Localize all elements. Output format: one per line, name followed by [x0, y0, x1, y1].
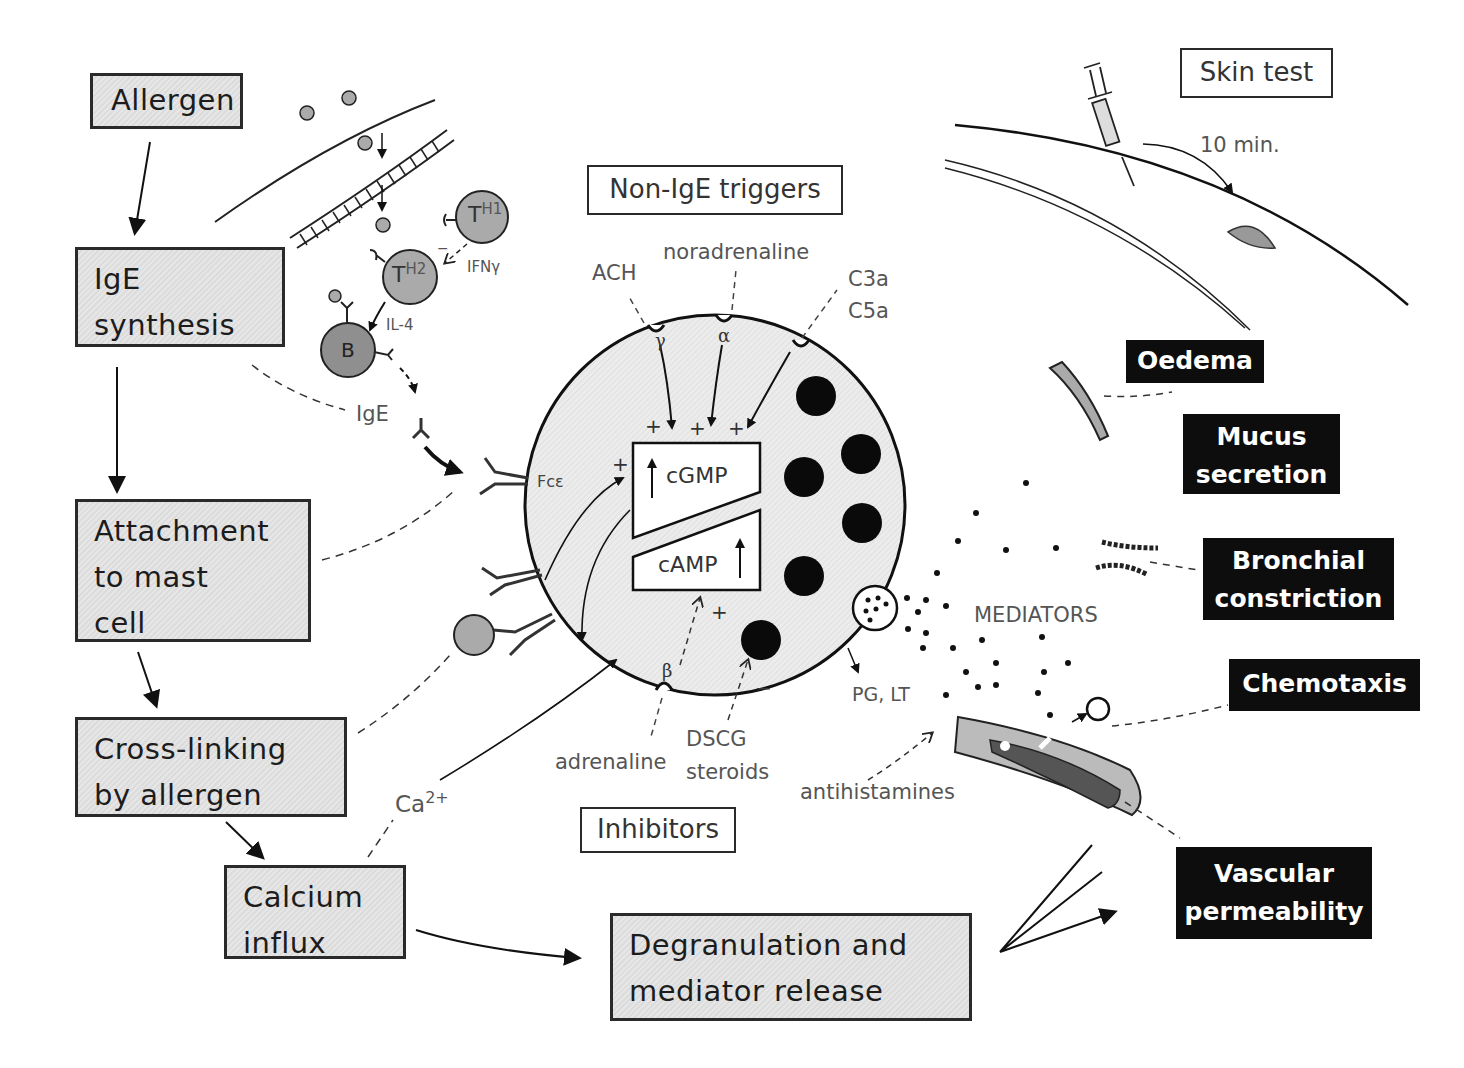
plus-sign-ach: + — [645, 414, 662, 438]
calcium-influx-box: Calcium influx — [224, 865, 406, 959]
cross-linking-label-1: Cross-linking — [94, 726, 328, 772]
fc-epsilon-label: Fcε — [537, 472, 564, 491]
ige-synthesis-label-2: synthesis — [94, 302, 266, 348]
allergen-box: Allergen — [90, 73, 243, 129]
degranulation-label-2: mediator release — [629, 968, 953, 1014]
plus-sign-complement: + — [728, 416, 745, 440]
attachment-box: Attachment to mast cell — [75, 499, 311, 642]
attachment-label-3: cell — [94, 600, 292, 646]
effect-mucus-secretion: Mucus secretion — [1183, 414, 1340, 494]
allergen-label: Allergen — [111, 80, 222, 120]
plus-sign-noradrenaline: + — [689, 416, 706, 440]
allergen-particles-icon — [300, 91, 390, 302]
effect-chemotaxis: Chemotaxis — [1229, 659, 1420, 711]
airway-epithelium-icon — [1050, 362, 1108, 440]
noradrenaline-label: noradrenaline — [663, 240, 809, 264]
effect-bronchial-label-2: constriction — [1203, 580, 1394, 618]
beta-receptor-label: β — [662, 660, 672, 681]
skin-test-time-label: 10 min. — [1200, 133, 1280, 157]
mediator-dots-icon — [904, 480, 1071, 718]
effect-chemotaxis-label: Chemotaxis — [1229, 665, 1420, 703]
non-ige-triggers-box: Non-IgE triggers — [587, 165, 843, 215]
b-cell-label: B — [341, 338, 355, 362]
skin-test-title: Skin test — [1200, 57, 1313, 87]
syringe-icon — [1084, 63, 1134, 186]
effect-vascular-label-1: Vascular — [1176, 855, 1372, 893]
th1-label: TH1 — [468, 200, 502, 227]
effect-mucus-label-2: secretion — [1183, 456, 1340, 494]
inhibitors-title: Inhibitors — [597, 814, 719, 844]
antihistamines-label: antihistamines — [800, 780, 955, 804]
camp-label: cAMP — [658, 552, 717, 577]
adrenaline-label: adrenaline — [555, 750, 666, 774]
plus-sign-camp: + — [711, 600, 728, 624]
minus-sign-dscg: − — [755, 676, 772, 700]
ifn-gamma-label: IFNγ — [467, 258, 500, 276]
allergen-crosslink-icon — [454, 615, 494, 655]
ige-synthesis-label-1: IgE — [94, 256, 266, 302]
plus-sign-cgmp: + — [612, 452, 629, 476]
calcium-influx-label-2: influx — [243, 920, 387, 966]
effect-vascular-permeability: Vascular permeability — [1176, 847, 1372, 939]
c3a-label: C3a — [848, 267, 889, 291]
calcium-ion-label: Ca2+ — [395, 788, 449, 817]
ige-molecule-icon — [413, 418, 429, 438]
degranulation-label-1: Degranulation and — [629, 922, 953, 968]
gamma-receptor-label: γ — [655, 330, 666, 351]
neutrophil-icon — [1087, 698, 1109, 720]
ige-label: IgE — [356, 402, 389, 426]
cross-linking-label-2: by allergen — [94, 772, 328, 818]
attachment-label-2: to mast — [94, 554, 292, 600]
effect-oedema: Oedema — [1126, 340, 1264, 383]
ach-label: ACH — [592, 261, 636, 285]
effect-bronchial-constriction: Bronchial constriction — [1203, 538, 1394, 620]
wheal-icon — [1228, 226, 1275, 248]
th2-label: TH2 — [392, 260, 426, 287]
effect-mucus-label-1: Mucus — [1183, 418, 1340, 456]
dscg-label: DSCG — [686, 727, 746, 751]
degranulation-box: Degranulation and mediator release — [610, 913, 972, 1021]
attachment-label-1: Attachment — [94, 508, 292, 554]
skin-surface-icon — [955, 125, 1408, 305]
epithelium-icon — [215, 100, 454, 248]
non-ige-triggers-title: Non-IgE triggers — [609, 174, 820, 204]
inhibitors-box: Inhibitors — [580, 807, 736, 853]
bronchial-muscle-icon — [1102, 542, 1158, 548]
alpha-receptor-label: α — [718, 325, 730, 346]
mediators-label: MEDIATORS — [974, 603, 1098, 627]
inhibition-minus: − — [437, 240, 449, 256]
calcium-influx-label-1: Calcium — [243, 874, 387, 920]
pg-lt-label: PG, LT — [852, 683, 910, 705]
ige-synthesis-box: IgE synthesis — [75, 247, 285, 347]
effect-bronchial-label-1: Bronchial — [1203, 542, 1394, 580]
effect-oedema-label: Oedema — [1126, 342, 1264, 380]
c5a-label: C5a — [848, 299, 889, 323]
effect-vascular-label-2: permeability — [1176, 893, 1372, 931]
cross-linking-box: Cross-linking by allergen — [75, 717, 347, 817]
il4-label: IL-4 — [386, 316, 413, 334]
steroids-label: steroids — [686, 760, 769, 784]
cgmp-label: cGMP — [666, 463, 727, 488]
skin-test-box: Skin test — [1180, 48, 1333, 98]
